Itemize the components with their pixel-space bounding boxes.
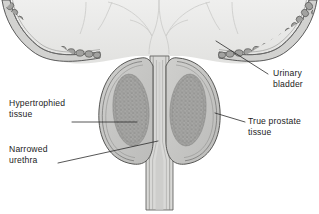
prostate-lobe-right xyxy=(166,58,220,165)
anatomy-figure: Hypertrophied tissue Narrowed urethra Ur… xyxy=(0,0,319,214)
label-narrowed-urethra: Narrowed urethra xyxy=(9,144,81,165)
label-hypertrophied-tissue: Hypertrophied tissue xyxy=(9,98,81,119)
label-urinary-bladder: Urinary bladder xyxy=(273,68,319,89)
label-true-prostate-tissue: True prostate tissue xyxy=(248,116,316,137)
